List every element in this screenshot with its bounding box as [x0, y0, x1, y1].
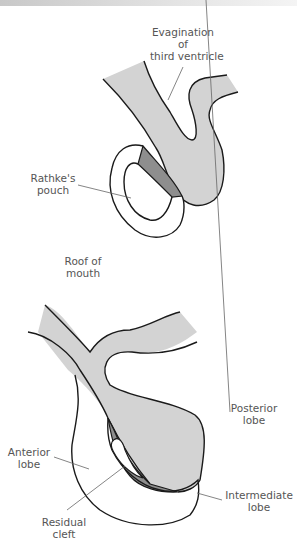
- label-intermediate-line1: Intermediate: [224, 489, 294, 501]
- label-anterior-lobe: Anterior lobe: [4, 446, 54, 470]
- label-evagination-line1: Evagination: [150, 26, 216, 38]
- label-intermediate-lobe: Intermediate lobe: [224, 489, 294, 513]
- label-anterior-line1: Anterior: [4, 446, 54, 458]
- label-posterior-line2: lobe: [228, 414, 280, 426]
- intermediate-leader-line: [197, 493, 222, 500]
- label-evagination-line3: third ventricle: [150, 50, 216, 62]
- label-rathke-line2: pouch: [30, 184, 76, 196]
- evagination-leader-line: [168, 67, 183, 100]
- label-roof-of-mouth: Roof of mouth: [62, 255, 104, 279]
- label-roof-line1: Roof of: [62, 255, 104, 267]
- label-posterior-line1: Posterior: [228, 402, 280, 414]
- posterior-lobe-and-stalk-shape: [28, 305, 204, 492]
- label-residual-line1: Residual: [40, 516, 88, 528]
- label-posterior-lobe: Posterior lobe: [228, 402, 280, 426]
- label-intermediate-line2: lobe: [224, 501, 294, 513]
- label-residual-cleft: Residual cleft: [40, 516, 88, 540]
- label-roof-line2: mouth: [62, 267, 104, 279]
- label-rathke-line1: Rathke's: [30, 172, 76, 184]
- label-anterior-line2: lobe: [4, 458, 54, 470]
- residual-cleft-leader-line: [67, 466, 125, 510]
- label-evagination: Evagination of third ventricle: [150, 26, 216, 62]
- label-rathke-pouch: Rathke's pouch: [30, 172, 76, 196]
- label-residual-line2: cleft: [40, 528, 88, 540]
- label-evagination-line2: of: [150, 38, 216, 50]
